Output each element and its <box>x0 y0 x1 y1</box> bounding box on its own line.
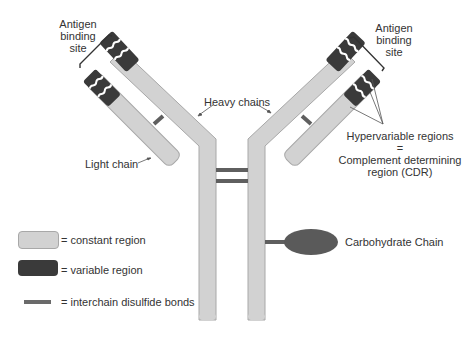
equals-text: = <box>334 142 466 154</box>
disulfide-bond-hinge-2 <box>216 179 248 183</box>
label-line: binding <box>368 34 420 46</box>
legend-label-variable: = variable region <box>61 264 143 276</box>
disulfide-bond-light-heavy-right <box>302 116 311 124</box>
label-line: Antigen <box>52 18 104 30</box>
disulfide-bond-hinge-1 <box>216 168 248 172</box>
carbohydrate-connector <box>265 240 285 244</box>
legend-swatch-bond <box>24 300 51 304</box>
antigen-binding-site-label-right: Antigen binding site <box>368 22 420 58</box>
hypervariable-text: Hypervariable regions <box>334 130 466 142</box>
label-line: Antigen <box>368 22 420 34</box>
light-chain-label: Light chain <box>85 158 138 170</box>
carbohydrate-chain-label: Carbohydrate Chain <box>345 236 443 248</box>
antigen-binding-site-label-left: Antigen binding site <box>52 18 104 54</box>
legend-swatch-constant <box>18 231 59 249</box>
heavy-chain-left <box>110 50 216 321</box>
cdr-text-line1: Complement determining <box>334 154 466 166</box>
heavy-chains-label: Heavy chains <box>204 96 270 108</box>
legend-label-bond: = interchain disulfide bonds <box>61 296 195 308</box>
label-line: site <box>52 42 104 54</box>
carbohydrate-chain <box>284 229 338 255</box>
label-line: binding <box>52 30 104 42</box>
legend-swatch-variable <box>18 260 58 276</box>
disulfide-bond-light-heavy-left <box>154 116 163 124</box>
label-line: site <box>368 46 420 58</box>
legend-label-constant: = constant region <box>61 234 146 246</box>
cdr-text-line2: region (CDR) <box>334 166 466 178</box>
heavy-chain-right <box>248 50 355 321</box>
cdr-label: Hypervariable regions = Complement deter… <box>334 130 466 178</box>
